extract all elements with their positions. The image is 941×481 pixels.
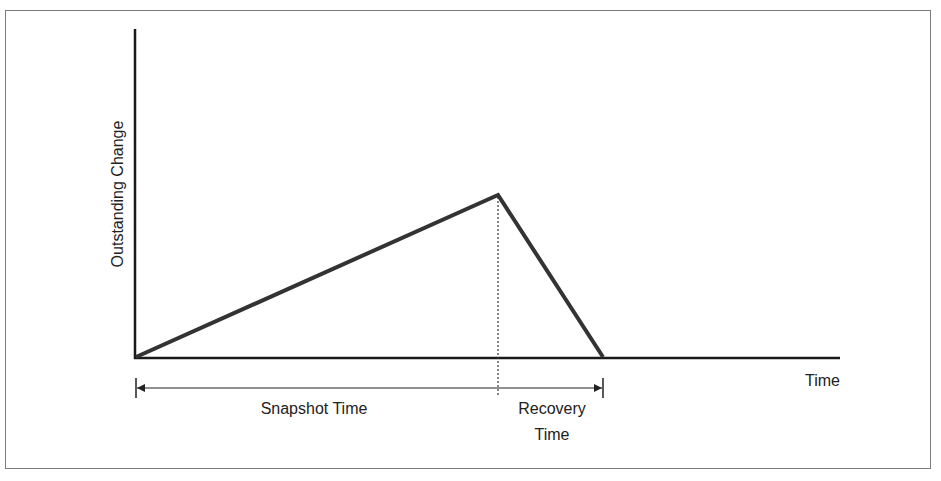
recovery-time-label-line2: Time [535, 426, 570, 443]
snapshot-time-label: Snapshot Time [261, 400, 368, 417]
outstanding-change-line [136, 195, 603, 357]
outstanding-change-diagram: Outstanding Change Time Snapshot Time Re… [0, 0, 941, 481]
recovery-time-label-line1: Recovery [518, 400, 586, 417]
x-axis-label: Time [805, 372, 840, 389]
y-axis-label: Outstanding Change [109, 121, 126, 268]
